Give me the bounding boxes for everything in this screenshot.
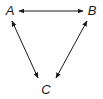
diagram-canvas: A B C xyxy=(0,0,103,99)
node-a-label: A xyxy=(3,4,17,17)
edge-a-c-arrow xyxy=(12,21,38,78)
node-b-label: B xyxy=(85,4,99,17)
node-c-label: C xyxy=(39,83,53,96)
edge-b-c-arrow xyxy=(56,21,87,78)
